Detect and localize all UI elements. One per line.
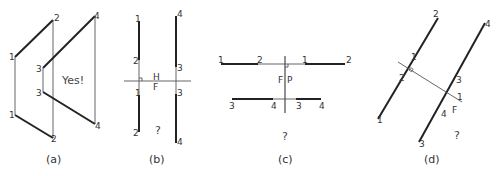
- panel-c: 1 2 1 2 3 4 3 4 F P ? (c): [218, 55, 352, 166]
- point-label: 3: [36, 64, 42, 74]
- point-label: 2: [51, 134, 57, 144]
- annotation-question: ?: [454, 129, 460, 142]
- point-label: 3: [296, 101, 302, 111]
- panel-b: 1 2 1 2 4 3 3 4 H F ? (b): [124, 9, 191, 166]
- caption-d: (d): [424, 153, 440, 166]
- point-label: 3: [177, 63, 183, 73]
- point-label: 4: [94, 11, 100, 21]
- point-label: 3: [456, 75, 462, 85]
- fold-label-1: 1: [457, 92, 463, 102]
- point-label: 3: [36, 88, 42, 98]
- point-label: 4: [271, 101, 277, 111]
- point-label: 3: [229, 101, 235, 111]
- orthographic-projection-diagram: 1 2 1 2 3 4 3 4 Yes! (a) 1 2 1 2 4 3 3 4…: [0, 0, 501, 176]
- fold-label-p: P: [287, 75, 293, 85]
- point-label: 4: [319, 101, 325, 111]
- panel-a: 1 2 1 2 3 4 3 4 Yes! (a): [9, 11, 101, 166]
- point-label: 2: [133, 128, 139, 138]
- fold-label-h: H: [153, 72, 160, 82]
- point-label: 2: [399, 73, 405, 83]
- point-label: 4: [177, 9, 183, 19]
- caption-a: (a): [46, 153, 61, 166]
- point-label: 1: [135, 14, 141, 24]
- point-label: 4: [177, 137, 183, 147]
- fold-label-f: F: [153, 82, 158, 92]
- point-label: 4: [441, 109, 447, 119]
- line-3-4: [419, 23, 485, 142]
- fold-label-f: F: [452, 105, 457, 115]
- fold-label-f: F: [278, 75, 283, 85]
- point-label: 1: [9, 52, 15, 62]
- point-label: 1: [302, 55, 308, 65]
- point-label: 3: [177, 88, 183, 98]
- annotation-yes: Yes!: [61, 74, 84, 87]
- point-label: 2: [257, 55, 263, 65]
- point-label: 1: [377, 115, 383, 125]
- caption-b: (b): [149, 153, 165, 166]
- point-label: 1: [411, 52, 417, 62]
- point-label: 2: [133, 56, 139, 66]
- panel-d: 2 1 2 1 4 3 4 3 1 F ? (d): [377, 9, 491, 166]
- point-label: 2: [54, 13, 60, 23]
- caption-c: (c): [278, 153, 293, 166]
- point-label: 4: [485, 19, 491, 29]
- point-label: 1: [218, 55, 224, 65]
- annotation-question: ?: [155, 124, 161, 137]
- line-3-4-bottom: [43, 92, 95, 124]
- point-label: 2: [433, 9, 439, 19]
- line-1-2-top: [15, 20, 53, 57]
- point-label: 4: [95, 121, 101, 131]
- line-3-4-top: [43, 16, 95, 68]
- line-1-2-bottom: [15, 115, 53, 138]
- point-label: 2: [346, 55, 352, 65]
- point-label: 1: [9, 110, 15, 120]
- annotation-question: ?: [282, 130, 288, 143]
- point-label: 1: [135, 88, 141, 98]
- point-label: 3: [419, 139, 425, 149]
